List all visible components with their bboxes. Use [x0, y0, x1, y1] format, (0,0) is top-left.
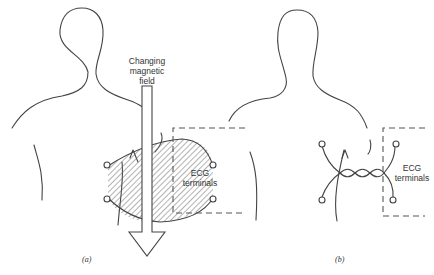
terminal-a-bottom-left: [104, 196, 110, 202]
terminal-b-top-right: [393, 141, 399, 147]
torso-outline-b: [229, 10, 367, 128]
ecg-label-b-line1: ECG: [403, 163, 421, 173]
panel-b: ECG terminals (b): [229, 10, 429, 264]
terminal-a-top-right: [210, 162, 216, 168]
terminal-b-bottom-right: [390, 197, 396, 203]
caption-b: (b): [335, 255, 345, 264]
terminal-a-bottom-right: [210, 196, 216, 202]
left-arm-line-b: [250, 152, 257, 220]
left-arm-line-a: [34, 145, 42, 200]
terminal-a-top-left: [104, 162, 110, 168]
panel-a: Changing magnetic field ECG terminals (a…: [12, 8, 245, 264]
lead-bottom-right: [384, 173, 393, 198]
caption-a: (a): [82, 255, 92, 264]
lead-top-left: [322, 146, 340, 173]
field-label-line3: field: [139, 76, 155, 86]
heart-axis-line-b: [336, 150, 344, 221]
terminal-b-bottom-left: [319, 197, 325, 203]
right-body-line-b: [368, 140, 371, 154]
twisted-pair-strand-2: [340, 169, 384, 177]
terminal-b-top-left: [319, 141, 325, 147]
lead-top-right: [384, 146, 395, 173]
ecg-label-a-line2: terminals: [183, 178, 217, 188]
ecg-label-a-line1: ECG: [191, 168, 209, 178]
field-label-line1: Changing: [129, 56, 166, 66]
twisted-pair-strand-1: [340, 169, 384, 177]
ecg-label-b-line2: terminals: [395, 173, 429, 183]
ecg-induction-diagram: Changing magnetic field ECG terminals (a…: [0, 0, 434, 275]
field-label-line2: magnetic: [130, 66, 165, 76]
